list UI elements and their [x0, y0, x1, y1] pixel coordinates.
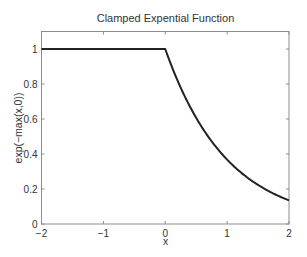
axes-box	[42, 32, 290, 225]
y-tick-label: 0.8	[24, 79, 38, 90]
chart-title: Clamped Expential Function	[97, 12, 235, 24]
axis-ticks	[42, 32, 290, 225]
x-tick-label: 2	[286, 228, 292, 239]
x-tick-label: −2	[36, 228, 48, 239]
chart: Clamped Expential Function −2−1012 00.20…	[0, 0, 307, 257]
y-tick-label: 1	[32, 44, 38, 55]
y-tick-labels: 00.20.40.60.81	[24, 44, 38, 230]
y-tick-label: 0.2	[24, 184, 38, 195]
y-tick-label: 0.4	[24, 149, 38, 160]
x-tick-label: −1	[98, 228, 110, 239]
y-tick-label: 0	[32, 219, 38, 230]
data-line	[42, 49, 290, 200]
x-tick-label: 1	[224, 228, 230, 239]
x-axis-label: x	[163, 235, 169, 247]
y-axis-label: exp(−max(x,0))	[12, 93, 24, 164]
y-tick-label: 0.6	[24, 114, 38, 125]
